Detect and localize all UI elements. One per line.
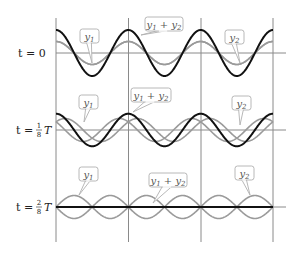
row-label-0: t = 0 bbox=[18, 47, 46, 60]
standing-wave-diagram: t = 0 t = 1 8 T t = 2 8 T y1y1 + y2y2y1y… bbox=[0, 0, 301, 258]
row-label-t2-T: T bbox=[44, 201, 53, 214]
callout-row2-y2: y2 bbox=[235, 166, 254, 195]
callout-pointer bbox=[133, 102, 155, 113]
row-label-t1-den: 8 bbox=[37, 131, 41, 139]
callout-row0-y1: y1 bbox=[80, 29, 99, 63]
row-label-1: t = 1 8 T bbox=[16, 122, 53, 139]
callout-pointer bbox=[239, 110, 244, 126]
callout-row0-y2: y2 bbox=[225, 30, 244, 63]
callout-pointer bbox=[79, 181, 90, 196]
callout-pointer bbox=[153, 187, 172, 204]
callout-row1-y1: y1 bbox=[79, 95, 98, 122]
row-label-t1-prefix: t = bbox=[16, 124, 33, 137]
callout-row1-sum: y1 + y2 bbox=[131, 88, 171, 112]
row-label-2: t = 2 8 T bbox=[16, 199, 53, 216]
row-label-t2-den: 8 bbox=[37, 208, 41, 216]
row-label-t2-num: 2 bbox=[37, 199, 41, 207]
callout-row1-y2: y2 bbox=[232, 96, 251, 125]
row-label-t0: t = 0 bbox=[18, 47, 46, 60]
row-label-t1-T: T bbox=[44, 124, 53, 137]
callout-row0-sum: y1 + y2 bbox=[141, 17, 183, 35]
callout-pointer bbox=[242, 180, 250, 196]
row-label-t1-num: 1 bbox=[37, 122, 41, 130]
callout-row2-y1: y1 bbox=[79, 167, 98, 195]
callouts: y1y1 + y2y2y1y1 + y2y2y1y1 + y2y2 bbox=[79, 17, 254, 203]
row-label-t2-prefix: t = bbox=[16, 201, 33, 214]
callout-pointer bbox=[84, 109, 90, 123]
